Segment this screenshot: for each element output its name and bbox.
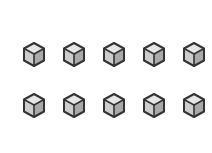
cube-icon[interactable] [62,92,86,119]
cube-icon[interactable] [62,41,86,68]
cube-icon[interactable] [22,41,46,68]
cube-icon[interactable] [142,92,166,119]
cube-icon[interactable] [102,92,126,119]
cube-icon[interactable] [182,92,206,119]
cube-icon[interactable] [102,41,126,68]
cube-icon[interactable] [22,92,46,119]
cube-icon[interactable] [142,41,166,68]
cube-icon[interactable] [182,41,206,68]
cube-icon-grid [0,0,212,153]
